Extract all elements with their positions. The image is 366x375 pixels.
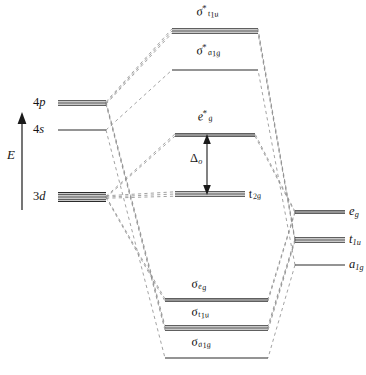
corr-t1u-to-sigma-t1u xyxy=(268,239,295,326)
energy-axis-label: E xyxy=(7,148,15,161)
mo-label-t2g: t2g xyxy=(248,186,262,202)
corr-a1g-to-sigma-star-a1g xyxy=(258,70,295,265)
corr-3d-to-sigma-eg xyxy=(106,196,165,299)
ligand-orbital-label-t1u: t1u xyxy=(349,233,361,247)
mo-label-sigma-star-t1u: σ*t1u xyxy=(195,2,219,22)
ligand-orbital-label-a1g: a1g xyxy=(349,258,364,272)
corr-3d-to-t2g xyxy=(106,196,175,198)
corr-4p-to-sigma-star-t1u xyxy=(106,31,172,103)
corr-4s-to-sigma-a1g xyxy=(106,130,165,358)
corr-4p-to-sigma-t1u xyxy=(106,104,165,330)
corr-t1u-to-sigma-t1u xyxy=(268,240,295,328)
energy-axis-arrow xyxy=(18,112,27,210)
ligand-orbital-label-eg: eg xyxy=(349,205,359,219)
mo-label-sigma-eg: σeg xyxy=(191,276,207,294)
metal-orbital-label-4s: 4s xyxy=(33,123,44,136)
diagram-svg xyxy=(0,0,366,375)
corr-4p-to-sigma-star-t1u xyxy=(106,33,172,104)
metal-orbital-label-4p: 4p xyxy=(33,96,46,109)
mo-label-eg-star: e*g xyxy=(197,108,213,125)
corr-a1g-to-sigma-a1g xyxy=(268,265,295,358)
corr-3d-to-eg-star xyxy=(106,136,175,198)
corr-eg-to-eg-star xyxy=(255,136,295,213)
corr-3d-to-sigma-eg xyxy=(106,198,165,301)
delta-o-arrow xyxy=(203,134,211,195)
corr-4s-to-sigma-star-a1g xyxy=(106,70,172,130)
mo-diagram-canvas: 4p4s3dσ*t1uσ*a1ge*gt2gσegσt1uσa1gegt1ua1… xyxy=(0,0,366,375)
mo-label-sigma-t1u: σt1u xyxy=(191,304,210,322)
corr-eg-to-sigma-eg xyxy=(268,213,295,301)
mo-label-sigma-a1g: σa1g xyxy=(191,333,212,352)
corr-4p-to-sigma-star-t1u xyxy=(106,29,172,102)
metal-orbital-label-3d: 3d xyxy=(33,190,46,203)
delta-o-label: Δo xyxy=(190,152,202,166)
